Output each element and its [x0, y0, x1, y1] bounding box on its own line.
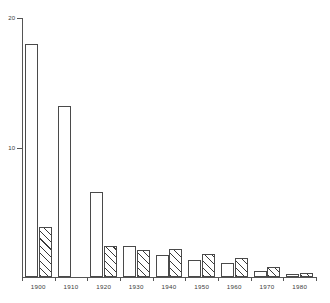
plot-area	[0, 0, 330, 303]
bar-1950-hatched-bar	[202, 254, 215, 277]
bar-1960-open-bar	[221, 263, 234, 277]
bar-1970-hatched-bar	[267, 267, 280, 277]
bar-1970-open-bar	[254, 271, 267, 277]
bar-1920-hatched-bar	[104, 246, 117, 277]
bar-1980-open-bar	[286, 274, 299, 277]
bar-1900-hatched-bar	[39, 227, 52, 278]
bar-1960-hatched-bar	[235, 258, 248, 277]
bar-1940-open-bar	[156, 255, 169, 277]
bar-1920-open-bar	[90, 192, 103, 277]
bar-1900-open-bar	[25, 44, 38, 277]
bar-1940-hatched-bar	[169, 249, 182, 277]
bar-1930-hatched-bar	[137, 250, 150, 277]
bar-1950-open-bar	[188, 260, 201, 277]
bar-1930-open-bar	[123, 246, 136, 277]
histogram-chart: 2010 19001910192019301940195019601970198…	[0, 0, 330, 303]
bar-1910-open-bar	[58, 106, 71, 277]
bar-1980-hatched-bar	[300, 273, 313, 277]
